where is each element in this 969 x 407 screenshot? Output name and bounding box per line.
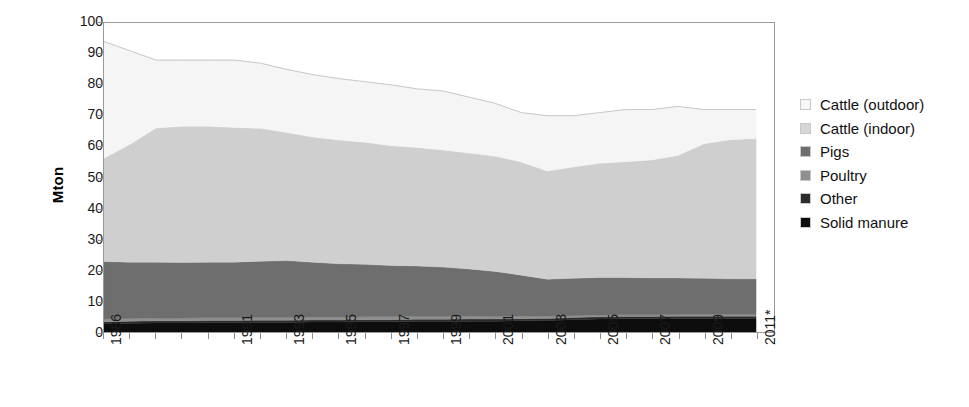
legend-label: Solid manure — [820, 215, 908, 230]
x-tick-mark — [495, 333, 496, 339]
legend-item[interactable]: Other — [800, 187, 965, 211]
legend-item[interactable]: Pigs — [800, 140, 965, 164]
x-tick-mark — [365, 333, 366, 339]
x-tick-mark — [522, 333, 523, 339]
legend-label: Cattle (indoor) — [820, 121, 915, 136]
x-tick-label: 1993 — [292, 314, 306, 345]
x-tick-mark — [260, 333, 261, 339]
legend-swatch-icon — [800, 99, 811, 110]
x-tick-label: 1995 — [344, 314, 358, 345]
x-tick-mark — [338, 333, 339, 339]
x-tick-mark — [600, 333, 601, 339]
x-tick-label: 2003 — [554, 314, 568, 345]
stacked-area-chart: Mton 1009080706050403020100 198619911993… — [0, 0, 969, 407]
x-tick-label: 1986 — [109, 314, 123, 345]
x-tick-label: 1999 — [449, 314, 463, 345]
x-tick-mark — [129, 333, 130, 339]
x-tick-mark — [757, 333, 758, 339]
legend-swatch-icon — [800, 146, 811, 157]
legend-item[interactable]: Cattle (indoor) — [800, 117, 965, 141]
legend-item[interactable]: Poultry — [800, 164, 965, 188]
legend-swatch-icon — [800, 123, 811, 134]
x-tick-label: 1991 — [240, 314, 254, 345]
x-tick-mark — [469, 333, 470, 339]
x-tick-mark — [103, 333, 104, 339]
legend-swatch-icon — [800, 193, 811, 204]
legend-item[interactable]: Solid manure — [800, 211, 965, 235]
x-tick-label: 2007 — [658, 314, 672, 345]
x-tick-mark — [731, 333, 732, 339]
x-tick-label: 2005 — [606, 314, 620, 345]
legend-label: Cattle (outdoor) — [820, 97, 924, 112]
x-tick-mark — [286, 333, 287, 339]
legend-swatch-icon — [800, 217, 811, 228]
x-tick-label: 1997 — [397, 314, 411, 345]
x-tick-mark — [391, 333, 392, 339]
x-tick-mark — [234, 333, 235, 339]
legend-label: Poultry — [820, 168, 867, 183]
x-tick-label: 2009 — [711, 314, 725, 345]
x-tick-label: 2001 — [501, 314, 515, 345]
x-tick-mark — [443, 333, 444, 339]
x-tick-mark — [679, 333, 680, 339]
x-tick-mark — [417, 333, 418, 339]
x-tick-mark — [626, 333, 627, 339]
chart-legend: Cattle (outdoor)Cattle (indoor)PigsPoult… — [800, 93, 965, 234]
legend-swatch-icon — [800, 170, 811, 181]
x-tick-mark — [312, 333, 313, 339]
x-tick-label: 2011* — [763, 309, 777, 345]
x-tick-mark — [155, 333, 156, 339]
x-tick-mark — [705, 333, 706, 339]
x-tick-mark — [181, 333, 182, 339]
x-tick-mark — [548, 333, 549, 339]
x-tick-mark — [208, 333, 209, 339]
x-tick-mark — [652, 333, 653, 339]
x-tick-mark — [574, 333, 575, 339]
legend-label: Other — [820, 191, 858, 206]
legend-label: Pigs — [820, 144, 849, 159]
legend-item[interactable]: Cattle (outdoor) — [800, 93, 965, 117]
